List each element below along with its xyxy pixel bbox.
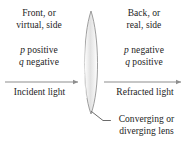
- back-side-label-line2: real, side: [104, 20, 184, 32]
- front-side-label: Front, or virtual, side: [0, 8, 78, 31]
- front-p-sign-value: positive: [25, 45, 58, 55]
- optics-sign-convention-figure: Front, or virtual, side Back, or real, s…: [0, 0, 187, 143]
- front-q-sign-value: negative: [24, 57, 59, 67]
- front-side-label-line2: virtual, side: [0, 20, 78, 32]
- front-side-label-line1: Front, or: [0, 8, 78, 20]
- biconvex-lens: [84, 11, 97, 114]
- back-q-sign-line: q positive: [104, 57, 184, 69]
- incident-light-label: Incident light: [0, 87, 79, 99]
- refracted-light-label: Refracted light: [103, 87, 187, 99]
- front-q-sign-line: q negative: [0, 57, 78, 69]
- lens-caption-line2: diverging lens: [106, 126, 187, 138]
- front-side-sign-convention: p positive q negative: [0, 45, 78, 68]
- back-side-label: Back, or real, side: [104, 8, 184, 31]
- back-side-label-line1: Back, or: [104, 8, 184, 20]
- back-side-sign-convention: p negative q positive: [104, 45, 184, 68]
- back-q-sign-value: positive: [130, 57, 163, 67]
- lens-caption: Converging or diverging lens: [106, 114, 187, 137]
- back-p-sign-value: negative: [129, 45, 164, 55]
- lens-caption-line1: Converging or: [106, 114, 187, 126]
- front-p-sign-line: p positive: [0, 45, 78, 57]
- back-p-sign-line: p negative: [104, 45, 184, 57]
